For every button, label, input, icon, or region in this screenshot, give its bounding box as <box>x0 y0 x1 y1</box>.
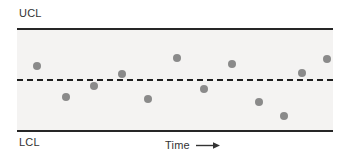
upper-control-limit-label: UCL <box>19 7 42 20</box>
right-arrow-icon <box>196 136 220 154</box>
data-point <box>144 95 152 103</box>
data-point <box>173 54 181 62</box>
lower-control-limit-label: LCL <box>19 136 40 149</box>
data-point <box>62 93 70 101</box>
data-point <box>118 70 126 78</box>
control-chart: UCL LCL Time <box>0 0 351 160</box>
lower-control-limit-line <box>17 130 333 132</box>
data-point <box>280 112 288 120</box>
data-point <box>228 60 236 68</box>
time-axis-label: Time <box>165 139 190 152</box>
data-point <box>298 69 306 77</box>
data-point <box>200 85 208 93</box>
data-point <box>323 55 331 63</box>
data-point <box>33 62 41 70</box>
data-point <box>255 98 263 106</box>
upper-control-limit-line <box>17 28 333 30</box>
center-line <box>17 79 333 81</box>
data-point <box>90 82 98 90</box>
time-axis-annotation: Time <box>165 136 220 154</box>
